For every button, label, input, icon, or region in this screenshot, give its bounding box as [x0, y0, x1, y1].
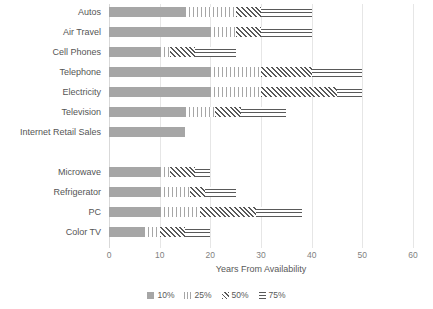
bar-segment-p25 [160, 207, 201, 217]
x-axis-title: Years From Availability [109, 264, 413, 274]
gridline-60 [413, 4, 414, 248]
bar-segment-p50 [200, 207, 256, 217]
bar-row [109, 7, 413, 17]
category-label: Color TV [66, 227, 101, 237]
legend-swatch-icon [147, 292, 154, 299]
bar-segment-p10 [109, 167, 160, 177]
bar-segment-p50 [160, 227, 185, 237]
bar-segment-p75 [312, 67, 363, 77]
chart-container: AutosAir TravelCell PhonesTelephoneElect… [0, 0, 433, 309]
bar-row [109, 67, 413, 77]
bar-segment-p10 [109, 47, 160, 57]
bar-row [109, 167, 413, 177]
bar-segment-p10 [109, 107, 185, 117]
legend-swatch-icon [259, 292, 266, 299]
bar-row [109, 27, 413, 37]
bar-segment-p50 [261, 67, 312, 77]
x-tick-label: 60 [408, 250, 417, 260]
x-tick-label: 20 [206, 250, 215, 260]
bar-row [109, 187, 413, 197]
bar-segment-p10 [109, 87, 210, 97]
category-axis: AutosAir TravelCell PhonesTelephoneElect… [0, 4, 105, 248]
bar-segment-p50 [236, 7, 261, 17]
bar-segment-p75 [256, 207, 302, 217]
bar-segment-p25 [160, 167, 170, 177]
x-tick-label: 50 [358, 250, 367, 260]
bar-segment-p75 [195, 47, 236, 57]
bar-segment-p25 [160, 47, 170, 57]
legend-swatch-icon [184, 292, 191, 299]
category-label: Air Travel [63, 27, 101, 37]
legend-label: 10% [157, 290, 174, 300]
bar-segment-p10 [109, 67, 210, 77]
legend-item[interactable]: 50% [222, 290, 249, 300]
bar-segment-p50 [170, 47, 195, 57]
bar-segment-p25 [210, 27, 235, 37]
bar-segment-p50 [170, 167, 195, 177]
x-tick-label: 30 [256, 250, 265, 260]
bar-row [109, 47, 413, 57]
bar-row [109, 127, 413, 137]
category-label: Refrigerator [53, 187, 101, 197]
legend-swatch-icon [222, 292, 229, 299]
x-tick-label: 40 [307, 250, 316, 260]
bar-segment-p10 [109, 127, 185, 137]
bar-segment-p50 [236, 27, 261, 37]
bar-segment-p75 [261, 27, 312, 37]
bar-segment-p25 [210, 87, 261, 97]
bar-row [109, 107, 413, 117]
bar-segment-p75 [185, 227, 210, 237]
bar-segment-p25 [185, 7, 236, 17]
category-label: Autos [78, 7, 101, 17]
bar-segment-p50 [190, 187, 205, 197]
category-label: Internet Retail Sales [20, 127, 101, 137]
bar-segment-p50 [261, 87, 337, 97]
legend-item[interactable]: 75% [259, 290, 286, 300]
x-tick-label: 0 [107, 250, 112, 260]
legend-label: 50% [232, 290, 249, 300]
x-axis-ticks: 0102030405060 [109, 250, 413, 262]
category-label: Telephone [59, 67, 101, 77]
legend-label: 25% [194, 290, 211, 300]
category-label: Television [61, 107, 101, 117]
bar-row [109, 207, 413, 217]
bar-segment-p25 [185, 107, 215, 117]
bar-segment-p75 [205, 187, 235, 197]
bar-segment-p75 [337, 87, 362, 97]
bar-segment-p75 [261, 7, 312, 17]
category-label: Microwave [58, 167, 101, 177]
bar-segment-p10 [109, 227, 144, 237]
bar-segment-p10 [109, 187, 160, 197]
bar-segment-p50 [215, 107, 240, 117]
bar-row [109, 227, 413, 237]
legend-item[interactable]: 25% [184, 290, 211, 300]
category-label: Electricity [62, 87, 101, 97]
category-label: Cell Phones [52, 47, 101, 57]
plot-area [109, 4, 413, 248]
bar-segment-p75 [241, 107, 287, 117]
bar-segment-p75 [195, 167, 210, 177]
chart-legend: 10%25%50%75% [0, 290, 433, 300]
bar-segment-p10 [109, 207, 160, 217]
category-label: PC [88, 207, 101, 217]
legend-item[interactable]: 10% [147, 290, 174, 300]
bar-segment-p25 [160, 187, 190, 197]
bar-row [109, 87, 413, 97]
bar-segment-p10 [109, 27, 210, 37]
x-tick-label: 10 [155, 250, 164, 260]
bar-segment-p25 [144, 227, 159, 237]
legend-label: 75% [269, 290, 286, 300]
bar-segment-p25 [210, 67, 261, 77]
bar-segment-p10 [109, 7, 185, 17]
